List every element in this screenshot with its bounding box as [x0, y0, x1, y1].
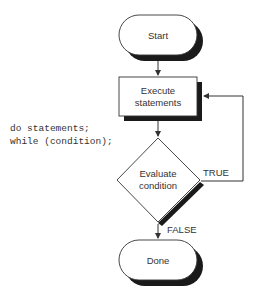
execute-label-line2: statements: [135, 97, 182, 108]
code-line-do: do statements;: [10, 123, 90, 134]
evaluate-label-line1: Evaluate: [140, 168, 177, 179]
evaluate-label-line2: condition: [139, 180, 177, 191]
start-terminal: Start: [119, 15, 203, 61]
evaluate-decision-diamond: Evaluate condition: [117, 138, 204, 226]
start-label: Start: [148, 30, 168, 41]
code-line-while: while (condition);: [10, 136, 113, 147]
done-terminal: Done: [119, 240, 203, 286]
done-label: Done: [147, 255, 170, 266]
code-snippet: do statements; while (condition);: [10, 123, 113, 147]
true-label: TRUE: [203, 167, 229, 178]
execute-process-box: Execute statements: [119, 77, 202, 121]
edge-false-exit: FALSE: [158, 224, 197, 238]
execute-label-line1: Execute: [141, 85, 175, 96]
edge-true-loop: TRUE: [201, 96, 243, 181]
flowchart-do-while: do statements; while (condition); Start …: [0, 0, 256, 302]
false-label: FALSE: [167, 224, 197, 235]
